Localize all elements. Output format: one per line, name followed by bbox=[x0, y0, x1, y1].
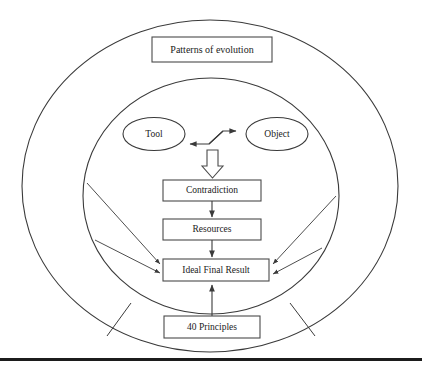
triz-diagram: Tool Object Patterns of evolution Contra… bbox=[0, 0, 422, 370]
resources-label: Resources bbox=[192, 224, 231, 234]
diagonal-arrow-left-lower bbox=[95, 240, 160, 273]
diagonal-arrow-right-upper bbox=[273, 196, 336, 264]
bottom-rule bbox=[0, 358, 422, 361]
contradiction-label: Contradiction bbox=[186, 185, 238, 195]
block-down-arrow bbox=[202, 150, 223, 178]
tool-to-object-arrow bbox=[209, 131, 236, 144]
tool-label: Tool bbox=[145, 129, 163, 139]
object-to-tool-arrow bbox=[190, 131, 223, 144]
diagonal-arrow-right-lower bbox=[273, 248, 322, 274]
principles-label: 40 Principles bbox=[187, 322, 237, 332]
patterns-of-evolution-label: Patterns of evolution bbox=[170, 44, 253, 55]
object-label: Object bbox=[264, 129, 290, 139]
ideal-final-result-label: Ideal Final Result bbox=[182, 265, 250, 275]
